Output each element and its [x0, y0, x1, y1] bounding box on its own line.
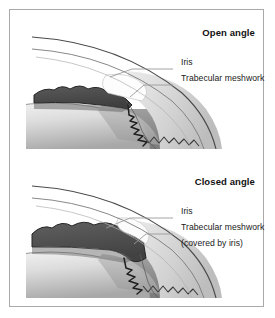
label-trabecular-meshwork-closed: Trabecular meshwork — [181, 222, 255, 232]
label-iris-open: Iris — [181, 57, 255, 67]
panel-closed-angle: Closed angle Iris Trabecular meshwork (c… — [10, 162, 263, 302]
label-trabecular-meshwork-sublabel: (covered by iris) — [181, 238, 255, 248]
label-iris-closed: Iris — [181, 206, 255, 216]
panel-open-angle: Open angle Iris Trabecular meshwork — [10, 13, 263, 153]
panel-title-open-angle: Open angle — [202, 27, 255, 38]
panel-title-closed-angle: Closed angle — [195, 176, 255, 187]
label-trabecular-meshwork-open: Trabecular meshwork — [181, 73, 255, 83]
figure-frame: Open angle Iris Trabecular meshwork — [9, 9, 264, 307]
